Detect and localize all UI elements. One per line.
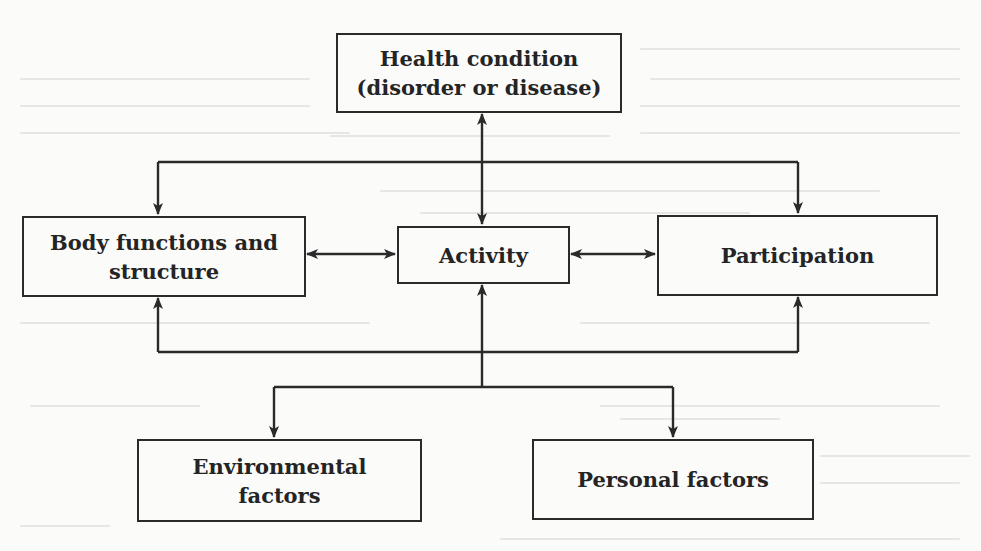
body-functions-line1: Body functions and <box>50 228 278 257</box>
personal-factors-box: Personal factors <box>532 439 814 520</box>
health-condition-line2: (disorder or disease) <box>357 73 602 102</box>
participation-label: Participation <box>721 241 875 270</box>
personal-factors-label: Personal factors <box>577 465 769 494</box>
environmental-factors-line2: factors <box>193 481 367 510</box>
environmental-factors-box: Environmental factors <box>137 439 422 522</box>
activity-box: Activity <box>397 226 570 284</box>
icf-diagram: Health condition (disorder or disease) B… <box>0 0 981 551</box>
environmental-factors-line1: Environmental <box>193 452 367 481</box>
activity-label: Activity <box>439 241 528 270</box>
health-condition-line1: Health condition <box>357 44 602 73</box>
body-functions-line2: structure <box>50 257 278 286</box>
body-functions-box: Body functions and structure <box>22 216 306 297</box>
participation-box: Participation <box>657 215 938 296</box>
health-condition-box: Health condition (disorder or disease) <box>336 33 622 113</box>
